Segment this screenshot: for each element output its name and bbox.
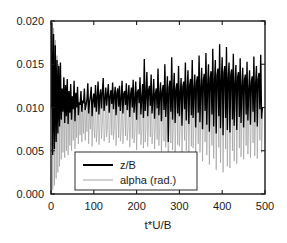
y-tick-label: 0.000 xyxy=(16,188,44,200)
legend-label-z: z/B xyxy=(120,159,136,171)
x-tick-label: 300 xyxy=(170,200,188,212)
x-tick-label: 0 xyxy=(48,200,54,212)
y-tick-label: 0.005 xyxy=(16,145,44,157)
y-tick-label: 0.010 xyxy=(16,102,44,114)
x-tick-label: 200 xyxy=(127,200,145,212)
x-tick-label: 100 xyxy=(85,200,103,212)
chart-plot-area: 0100200300400500 0.0000.0050.0100.0150.0… xyxy=(0,0,287,243)
y-tick-label: 0.020 xyxy=(16,15,44,27)
chart-figure: 0100200300400500 0.0000.0050.0100.0150.0… xyxy=(0,0,287,243)
chart-legend: z/B alpha (rad.) xyxy=(75,152,197,190)
legend-label-alpha: alpha (rad.) xyxy=(120,174,176,186)
x-axis-title: t*U/B xyxy=(145,219,172,231)
x-tick-label: 400 xyxy=(213,200,231,212)
x-tick-label: 500 xyxy=(256,200,274,212)
y-tick-label: 0.015 xyxy=(16,58,44,70)
